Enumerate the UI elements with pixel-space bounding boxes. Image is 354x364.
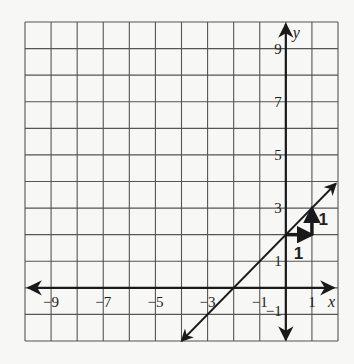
rise-label: 1 — [318, 210, 327, 229]
x-tick-label: −3 — [200, 294, 216, 310]
x-tick-label: 1 — [308, 294, 316, 310]
x-tick-label: −5 — [147, 294, 163, 310]
x-tick-label: −7 — [95, 294, 111, 310]
y-tick-label: 3 — [274, 200, 282, 216]
grid-lines — [25, 22, 338, 341]
slope-steps: 11 — [286, 209, 328, 263]
y-tick-label: 5 — [274, 147, 282, 163]
axis-labels: −9−7−5−3−1197531−1xy — [43, 24, 335, 319]
graph-line — [182, 184, 337, 342]
x-tick-label: −9 — [43, 294, 59, 310]
y-tick-label: 7 — [274, 94, 282, 110]
line-y-equals-x-plus-2 — [182, 184, 337, 342]
coordinate-graph: 11 −9−7−5−3−1197531−1xy — [0, 0, 354, 364]
y-tick-label: 9 — [274, 41, 282, 57]
run-label: 1 — [294, 244, 303, 263]
y-tick-label: −1 — [266, 303, 282, 319]
x-axis-label: x — [327, 293, 335, 310]
y-tick-label: 1 — [274, 253, 282, 269]
y-axis-label: y — [291, 24, 301, 42]
